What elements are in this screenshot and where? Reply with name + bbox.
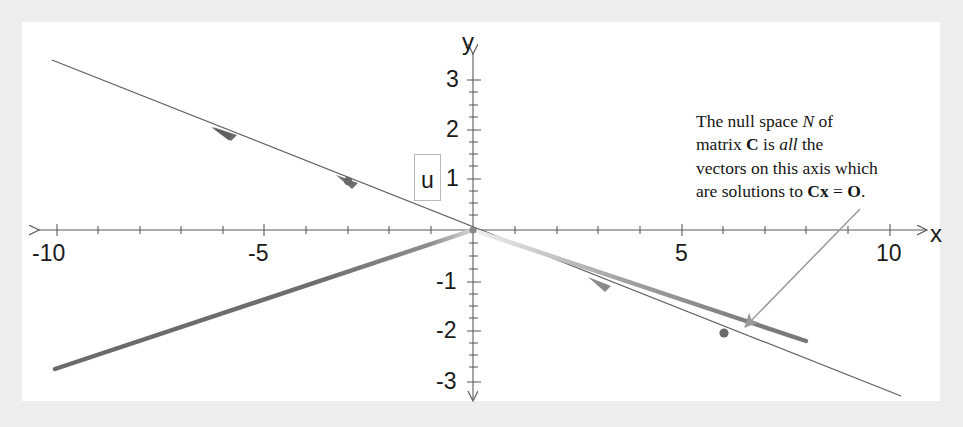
annot-line1-part2: of <box>814 111 833 131</box>
annot-period: . <box>861 181 865 201</box>
point-marker-origin <box>469 226 476 233</box>
annot-line2-part1: matrix <box>696 134 746 154</box>
annot-Cx-symbol: Cx <box>807 181 828 201</box>
vector-u-positive <box>473 230 806 341</box>
x-tick-label-minus10: -10 <box>32 242 65 265</box>
y-tick-label-1: 1 <box>446 167 459 190</box>
annotation-pointer-arrow <box>745 209 860 327</box>
y-tick-label-2: 2 <box>446 118 459 141</box>
y-tick-label-minus1: -1 <box>436 270 456 293</box>
vector-arrowhead <box>211 127 237 141</box>
coordinate-plot <box>0 0 963 427</box>
y-tick-label-3: 3 <box>446 68 459 91</box>
x-axis-label: x <box>930 222 942 246</box>
x-tick-label-10: 10 <box>876 242 902 265</box>
annot-line4-part1: are solutions to <box>696 181 807 201</box>
point-marker-6-minus2 <box>719 328 728 337</box>
annot-equals: = <box>829 181 848 201</box>
y-axis-label: y <box>462 30 474 54</box>
annot-N-symbol: N <box>802 111 814 131</box>
annot-O-symbol: O <box>847 181 861 201</box>
annot-line1-part1: The null space <box>696 111 802 131</box>
point-marker-minus3-1 <box>344 177 352 185</box>
annot-line2-part2: is <box>759 134 779 154</box>
annot-all-emphasis: all <box>779 134 797 154</box>
vector-u-label: u <box>414 167 441 194</box>
annot-line3: vectors on this axis which <box>696 158 878 178</box>
annot-C-symbol: C <box>746 134 759 154</box>
y-tick-label-minus2: -2 <box>436 319 456 342</box>
annot-line2-part3: the <box>798 134 824 154</box>
x-tick-label-5: 5 <box>675 242 688 265</box>
y-tick-label-minus3: -3 <box>436 370 456 393</box>
null-space-annotation: The null space N of matrix C is all the … <box>696 110 936 203</box>
x-tick-label-minus5: -5 <box>248 242 268 265</box>
figure-container: -10 -5 5 10 3 2 1 -1 -2 -3 x y u The nul… <box>0 0 963 427</box>
